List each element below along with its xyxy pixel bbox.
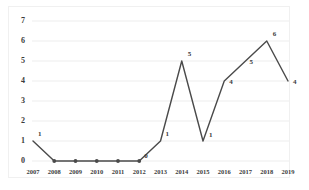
data-point-label: 1: [38, 131, 42, 138]
data-point-marker: [95, 159, 99, 163]
data-point-label: 0: [144, 153, 148, 160]
data-point-label: 1: [166, 131, 170, 138]
y-axis-tick-label: 4: [11, 77, 25, 85]
chart-plot-svg: [0, 0, 309, 190]
data-point-marker: [52, 159, 56, 163]
data-point-label: 6: [273, 31, 277, 38]
y-axis-tick-label: 6: [11, 37, 25, 45]
x-axis-tick-label: 2019: [275, 168, 301, 175]
y-axis-tick-label: 5: [11, 57, 25, 65]
data-point-marker: [116, 159, 120, 163]
data-point-label: 1: [209, 132, 213, 139]
data-point-label: 4: [293, 79, 297, 86]
line-chart-figure: 01234567 2007200820092010201120122013201…: [0, 0, 309, 190]
data-point-marker: [137, 159, 141, 163]
data-point-label: 5: [188, 51, 192, 58]
y-axis-tick-label: 7: [11, 17, 25, 25]
y-axis-tick-label: 2: [11, 117, 25, 125]
y-axis-tick-label: 1: [11, 137, 25, 145]
y-axis-tick-label: 3: [11, 97, 25, 105]
data-point-label: 4: [229, 79, 233, 86]
data-point-marker: [74, 159, 78, 163]
y-axis-tick-label: 0: [11, 157, 25, 165]
data-point-label: 5: [250, 59, 254, 66]
